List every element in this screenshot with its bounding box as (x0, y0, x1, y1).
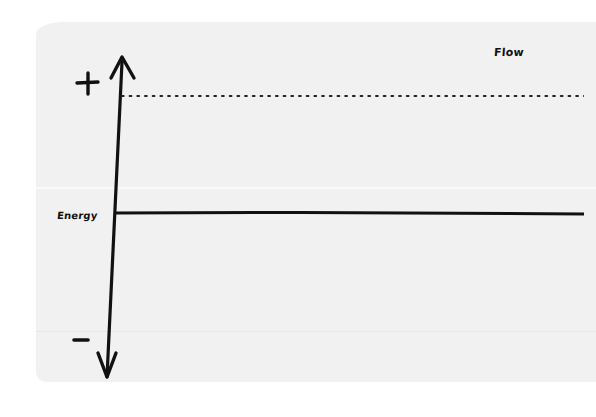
plus-icon (77, 73, 98, 94)
vertical-axis (107, 62, 122, 377)
flow-axis-label: Flow (494, 46, 525, 59)
energy-baseline-line (115, 213, 584, 215)
energy-axis-label: Energy (56, 210, 98, 221)
